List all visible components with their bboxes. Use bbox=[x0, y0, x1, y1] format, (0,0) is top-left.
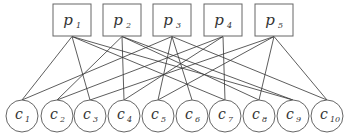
node-c10: c10 bbox=[311, 100, 343, 132]
edge-p4-c2 bbox=[57, 37, 223, 101]
node-p1: p1 bbox=[53, 4, 91, 36]
node-c7: c7 bbox=[209, 100, 241, 132]
top-nodes: p1p2p3p4p5 bbox=[53, 4, 293, 36]
node-c2: c2 bbox=[41, 100, 73, 132]
node-c9: c9 bbox=[277, 100, 309, 132]
svg-text:10: 10 bbox=[330, 115, 340, 124]
node-c6: c6 bbox=[176, 100, 208, 132]
node-label: c bbox=[15, 106, 23, 122]
node-label: c bbox=[83, 106, 91, 122]
node-label: p bbox=[163, 11, 173, 29]
node-label: p bbox=[214, 11, 224, 29]
node-label: c bbox=[151, 106, 159, 122]
edge-p1-c1 bbox=[22, 37, 72, 101]
node-label: c bbox=[185, 106, 193, 122]
node-c8: c8 bbox=[243, 100, 275, 132]
svg-text:8: 8 bbox=[262, 115, 267, 124]
svg-text:1: 1 bbox=[25, 115, 30, 124]
node-c1: c1 bbox=[6, 100, 38, 132]
edge-p5-c3 bbox=[90, 37, 274, 101]
svg-text:5: 5 bbox=[278, 21, 283, 30]
node-label: c bbox=[320, 106, 328, 122]
svg-text:3: 3 bbox=[176, 21, 181, 30]
svg-text:9: 9 bbox=[296, 115, 301, 124]
edge-p3-c5 bbox=[158, 37, 172, 101]
svg-text:2: 2 bbox=[125, 21, 131, 30]
edge-p2-c2 bbox=[57, 37, 122, 101]
node-label: c bbox=[286, 106, 294, 122]
svg-text:1: 1 bbox=[76, 21, 81, 30]
edge-p3-c10 bbox=[172, 37, 327, 101]
node-c4: c4 bbox=[108, 100, 140, 132]
node-c5: c5 bbox=[142, 100, 174, 132]
svg-text:2: 2 bbox=[59, 115, 65, 124]
node-p5: p5 bbox=[255, 4, 293, 36]
edge-p4-c7 bbox=[223, 37, 225, 101]
node-label: c bbox=[218, 106, 226, 122]
graph-canvas: p1p2p3p4p5 c1c2c3c4c5c6c7c8c9c10 bbox=[0, 0, 349, 137]
edge-p2-c4 bbox=[122, 37, 124, 101]
node-p4: p4 bbox=[204, 4, 242, 36]
node-label: c bbox=[50, 106, 58, 122]
node-label: p bbox=[113, 11, 123, 29]
edge-p5-c10 bbox=[274, 37, 327, 101]
node-label: c bbox=[117, 106, 125, 122]
bipartite-diagram: p1p2p3p4p5 c1c2c3c4c5c6c7c8c9c10 bbox=[0, 0, 349, 137]
edge-p2-c8 bbox=[122, 37, 259, 101]
node-label: p bbox=[63, 11, 73, 29]
node-p3: p3 bbox=[153, 4, 191, 36]
node-label: p bbox=[265, 11, 275, 29]
node-label: c bbox=[252, 106, 260, 122]
edges bbox=[22, 37, 327, 101]
svg-text:6: 6 bbox=[195, 115, 200, 124]
node-c3: c3 bbox=[74, 100, 106, 132]
svg-text:4: 4 bbox=[126, 115, 132, 124]
node-p2: p2 bbox=[103, 4, 141, 36]
svg-text:3: 3 bbox=[93, 115, 98, 124]
svg-text:5: 5 bbox=[161, 115, 166, 124]
svg-text:4: 4 bbox=[226, 21, 232, 30]
bottom-nodes: c1c2c3c4c5c6c7c8c9c10 bbox=[6, 100, 343, 132]
